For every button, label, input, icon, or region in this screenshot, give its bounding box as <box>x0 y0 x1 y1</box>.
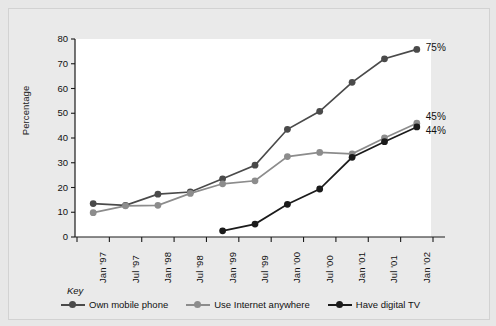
legend-label: Use Internet anywhere <box>214 299 310 310</box>
legend-item-2[interactable]: Use Internet anywhere <box>186 299 310 310</box>
legend-title: Key <box>67 285 83 296</box>
series-1 <box>90 46 420 209</box>
data-point <box>122 202 129 209</box>
line-chart-svg <box>9 9 489 319</box>
legend-label: Own mobile phone <box>89 299 168 310</box>
data-point <box>252 177 259 184</box>
legend-label: Have digital TV <box>356 299 420 310</box>
data-point <box>219 180 226 187</box>
legend-marker-icon <box>186 300 210 310</box>
data-point <box>316 108 323 115</box>
data-point <box>316 149 323 156</box>
legend-marker-icon <box>61 300 85 310</box>
legend-item-3[interactable]: Have digital TV <box>328 299 420 310</box>
data-point <box>187 190 194 197</box>
legend-marker-icon <box>328 300 352 310</box>
series-3 <box>219 124 420 235</box>
data-point <box>349 79 356 86</box>
data-point <box>284 153 291 160</box>
chart-legend: Own mobile phoneUse Internet anywhereHav… <box>61 299 420 310</box>
data-point <box>252 162 259 169</box>
data-point <box>413 46 420 53</box>
data-point <box>219 227 226 234</box>
data-point <box>413 124 420 131</box>
data-point <box>284 201 291 208</box>
data-point <box>155 191 162 198</box>
data-point <box>381 55 388 62</box>
chart-frame: Percentage 01020304050607080 Jan '97Jul … <box>0 0 496 326</box>
legend-item-1[interactable]: Own mobile phone <box>61 299 168 310</box>
data-point <box>349 154 356 161</box>
data-point <box>381 138 388 145</box>
data-point <box>155 202 162 209</box>
data-point <box>284 126 291 133</box>
data-point <box>90 209 97 216</box>
data-point <box>90 200 97 207</box>
data-point <box>252 221 259 228</box>
data-point <box>316 186 323 193</box>
chart-card: Percentage 01020304050607080 Jan '97Jul … <box>8 8 490 320</box>
